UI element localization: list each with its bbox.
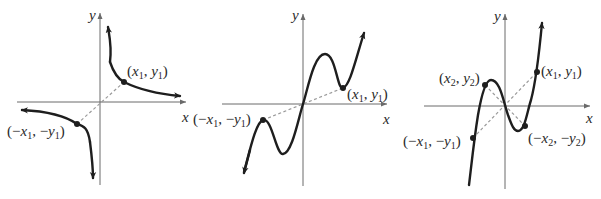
point-label-neg-x1-neg-y1: (−x1, −y1) <box>403 133 461 151</box>
panel-2-graph: y x (x1, y1) (−x1, −y1) <box>193 7 390 186</box>
point-label-x1-y1: (x1, y1) <box>347 86 388 104</box>
point-x1-y1 <box>534 69 540 75</box>
point-label-x1-y1: (x1, y1) <box>127 63 168 81</box>
point-neg-x1-neg-y1 <box>74 121 80 127</box>
panel-1-graph: y x (x1, y1) (−x1, −y1) <box>7 7 189 185</box>
point-label-x1-y1: (x1, y1) <box>541 63 582 81</box>
point-x1-y1 <box>340 85 346 91</box>
point-neg-x2-neg-y2 <box>522 123 528 129</box>
x-axis-label: x <box>181 109 189 125</box>
panel-3-graph: y x (x1, y1) (x2, y2) (−x2, −y2) (−x1, −… <box>403 8 593 189</box>
point-label-x2-y2: (x2, y2) <box>439 70 480 88</box>
curve-branch-lower-steep <box>90 142 93 178</box>
y-axis-label: y <box>290 7 299 23</box>
x-axis-label: x <box>382 111 390 127</box>
odd-function-graphs: y x (x1, y1) (−x1, −y1) y x (x1, y1) (−x… <box>0 0 601 199</box>
point-x2-y2 <box>482 82 488 88</box>
point-label-neg-x2-neg-y2: (−x2, −y2) <box>528 130 586 148</box>
odd-function-curve <box>244 33 364 172</box>
y-axis-label: y <box>87 7 96 23</box>
y-axis-label: y <box>492 8 501 24</box>
point-neg-x1-neg-y1 <box>470 135 476 141</box>
point-neg-x1-neg-y1 <box>260 117 266 123</box>
curve-branch-upper-steep <box>108 27 111 62</box>
point-x1-y1 <box>121 79 127 85</box>
point-label-neg-x1-neg-y1: (−x1, −y1) <box>7 123 65 141</box>
x-axis-label: x <box>585 110 593 126</box>
curve-end-arrow-lower <box>244 150 250 173</box>
point-label-neg-x1-neg-y1: (−x1, −y1) <box>193 111 251 129</box>
